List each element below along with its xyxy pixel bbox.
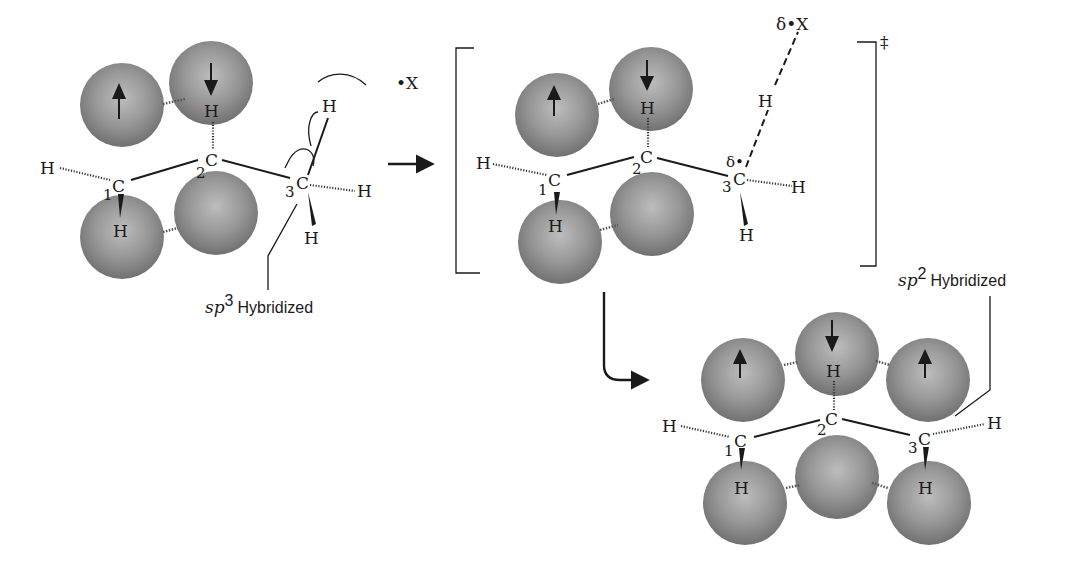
atom-h: H [987,413,1002,433]
product-allyl-radical: H C 1 H H C 2 C 3 H H sp2Hybridized [662,265,1006,545]
locant-2: 2 [632,160,642,178]
partial-bond-c3-h [746,110,768,167]
atom-c1: C [734,431,747,451]
atom-h: H [357,181,372,201]
bond-c1-c2 [567,157,634,175]
atom-h: H [548,216,563,236]
p-orbital-c2-bottom [795,435,879,519]
atom-c3: C [296,173,309,193]
hashed-bond-c3-h [747,180,792,186]
atom-c2: C [640,147,653,167]
partial-bond-h-x [775,32,798,85]
locant-2: 2 [817,421,827,439]
atom-h: H [204,101,219,121]
bond-c1-c2 [754,420,820,437]
hashed-bond-c3-h [933,424,985,434]
atom-h: H [918,478,933,498]
bond-c3-h-abstracted [308,118,328,175]
atom-h: H [322,96,337,116]
p-orbital-c1-bottom [518,200,602,284]
hashed-bond-c1-h [681,426,730,437]
p-orbital-c1-top [515,73,599,157]
fishhook-arrow-bond [285,149,314,168]
atom-h: H [734,478,749,498]
atom-h: H [304,228,319,248]
sp3-hybridized-label: sp3Hybridized [205,292,313,317]
locant-1: 1 [538,181,548,199]
fishhook-arrow-h [309,112,318,146]
hashed-bond-c1-h [60,168,110,180]
p-orbital-c3-top [886,338,970,422]
double-dagger: ‡ [880,32,889,52]
atom-c3: C [733,169,746,189]
partial-radical-x: δ•X [776,14,809,34]
atom-c1: C [112,176,125,196]
transition-state: ‡ H C 1 H H C 2 C 3 δ• H [456,14,889,284]
p-orbital-c2-bottom [610,172,694,256]
hashed-bond-c1-h [493,164,547,175]
bond-c2-c3 [842,419,910,435]
p-orbital-c1-top [80,63,164,147]
bracket-right [857,42,876,266]
locant-2: 2 [196,164,206,182]
locant-1: 1 [103,186,113,204]
atom-h: H [113,221,128,241]
atom-c3: C [918,429,931,449]
partial-radical-c3: δ• [726,153,744,171]
atom-c2: C [205,150,218,170]
bond-c1-c2 [131,160,198,180]
sp2-hybridized-label: sp2Hybridized [898,265,1006,290]
atom-c1: C [548,170,561,190]
locant-1: 1 [724,442,734,460]
orbital-overlap-bottom [163,228,178,232]
atom-h: H [476,153,491,173]
wedge-bond-c3-h-down [308,192,316,226]
reactant-molecule: H C 1 H H C 2 C 3 H H H •X sp3Hybridized [40,41,419,317]
atom-h: H [40,158,55,178]
atom-h: H [662,416,677,436]
wedge-bond-c3-h-down [740,192,748,226]
locant-3: 3 [285,183,295,201]
locant-3: 3 [908,439,918,457]
orbital-overlap-top-left [784,362,798,365]
fishhook-arrow-radical [318,74,366,85]
p-orbital-c1-top [701,338,785,422]
hashed-bond-c3-h [310,185,355,191]
bond-c2-c3 [657,158,728,176]
atom-h-transferring: H [758,91,773,111]
p-orbital-c2-top [609,47,693,131]
atom-h: H [640,98,655,118]
reaction-arrow-2 [604,292,645,380]
radical-x: •X [396,73,419,93]
p-orbital-c2-top [795,312,879,396]
sp3-leader-line [268,204,297,290]
p-orbital-c3-bottom [887,461,971,545]
p-orbital-c1-bottom [703,461,787,545]
atom-c2: C [825,409,838,429]
reaction-diagram: H C 1 H H C 2 C 3 H H H •X sp3Hybridized… [0,0,1066,573]
p-orbital-c2-bottom [174,171,258,255]
atom-h: H [791,177,806,197]
atom-h: H [826,361,841,381]
atom-h: H [739,225,754,245]
locant-3: 3 [722,178,732,196]
